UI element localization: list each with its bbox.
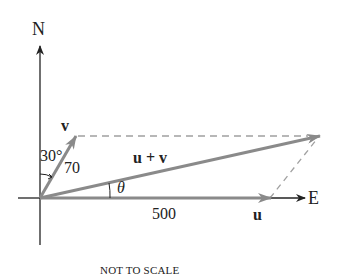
sum-vector-label: u + v <box>133 150 167 166</box>
vector-u-label: u <box>253 207 262 223</box>
vector-diagram: N E v 30° 70 u + v θ 500 u NOT TO SCALE <box>0 0 345 279</box>
east-label: E <box>308 189 319 207</box>
v-magnitude-label: 70 <box>64 160 80 176</box>
u-magnitude-label: 500 <box>152 206 176 222</box>
north-label: N <box>32 20 45 38</box>
v-angle-label: 30° <box>40 148 62 164</box>
diagram-canvas <box>0 0 345 279</box>
angle-arc-theta <box>109 183 110 198</box>
not-to-scale-caption: NOT TO SCALE <box>100 265 179 276</box>
vector-v-label: v <box>61 118 69 134</box>
theta-label: θ <box>117 180 125 196</box>
